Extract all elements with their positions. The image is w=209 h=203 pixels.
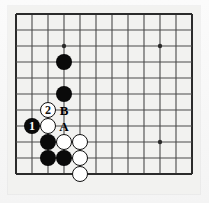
star-point-icon xyxy=(158,140,162,144)
go-diagram-root: 12BA xyxy=(0,0,209,203)
board-grid xyxy=(8,6,200,194)
point-letter-a: A xyxy=(56,118,72,134)
move-number-label: 2 xyxy=(40,102,56,118)
go-board[interactable] xyxy=(8,6,200,194)
move-number-label: 1 xyxy=(24,118,40,134)
star-point-icon xyxy=(158,44,162,48)
point-letter-b: B xyxy=(56,102,72,118)
star-point-icon xyxy=(62,44,66,48)
